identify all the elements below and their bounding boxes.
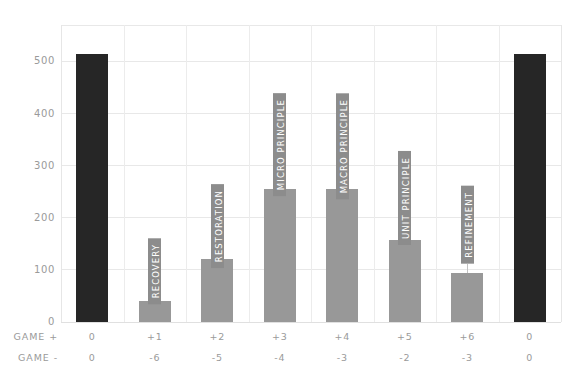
gridline-vertical — [124, 25, 125, 322]
callout-chip-text: RECOVERY — [148, 238, 161, 304]
axis-cell-value: +1 — [139, 331, 171, 342]
callout-stem — [467, 264, 468, 273]
y-axis: 0100200300400500 — [0, 0, 55, 375]
bar-callout-label: RECOVERY — [148, 238, 161, 301]
axis-cell-value: +3 — [264, 331, 296, 342]
x-axis: GAME +0+1+2+3+4+5+60GAME -0-6-5-4-3-2-30 — [0, 325, 576, 373]
gridline-vertical — [561, 25, 562, 322]
bar[interactable] — [514, 54, 546, 322]
bar[interactable] — [326, 189, 358, 322]
axis-cell-value: 0 — [514, 352, 546, 363]
bar[interactable] — [201, 259, 233, 322]
axis-cell-value: 0 — [76, 331, 108, 342]
bar[interactable] — [389, 240, 421, 322]
callout-chip-text: MACRO PRINCIPLE — [336, 93, 349, 199]
axis-row-title: GAME - — [0, 352, 58, 363]
axis-cell-value: -4 — [264, 352, 296, 363]
axis-cell-value: +5 — [389, 331, 421, 342]
axis-cell-value: 0 — [514, 331, 546, 342]
callout-chip-text: UNIT PRINCIPLE — [398, 151, 411, 245]
gridline-vertical — [249, 25, 250, 322]
axis-cell-value: -3 — [451, 352, 483, 363]
axis-cell-value: +6 — [451, 331, 483, 342]
axis-cell-value: -2 — [389, 352, 421, 363]
gridline-vertical — [436, 25, 437, 322]
axis-cell-value: -6 — [139, 352, 171, 363]
bar-callout-label: UNIT PRINCIPLE — [398, 151, 411, 240]
gridline-vertical — [186, 25, 187, 322]
axis-cell-value: +2 — [201, 331, 233, 342]
y-tick-label: 400 — [34, 109, 55, 119]
bar-callout-label: RESTORATION — [211, 184, 224, 259]
bar-callout-label: MACRO PRINCIPLE — [336, 93, 349, 189]
y-tick-label: 200 — [34, 213, 55, 223]
bar-callout-label: REFINEMENT — [461, 186, 474, 273]
axis-cell-value: 0 — [76, 352, 108, 363]
gridline-vertical — [311, 25, 312, 322]
axis-row-title: GAME + — [0, 331, 58, 342]
y-tick-label: 100 — [34, 265, 55, 275]
axis-cell-value: +4 — [326, 331, 358, 342]
plot-area: RECOVERYRESTORATIONMICRO PRINCIPLEMACRO … — [61, 25, 561, 322]
bar-chart: 0100200300400500 RECOVERYRESTORATIONMICR… — [0, 0, 576, 375]
gridline-vertical — [374, 25, 375, 322]
bar[interactable] — [264, 189, 296, 322]
bar-callout-label: MICRO PRINCIPLE — [273, 93, 286, 189]
gridline-vertical — [499, 25, 500, 322]
y-tick-label: 300 — [34, 161, 55, 171]
axis-cell-value: -3 — [326, 352, 358, 363]
bar[interactable] — [451, 273, 483, 323]
callout-chip-text: RESTORATION — [211, 184, 224, 268]
axis-cell-value: -5 — [201, 352, 233, 363]
bar[interactable] — [76, 54, 108, 322]
gridline-vertical — [61, 25, 62, 322]
y-tick-label: 500 — [34, 56, 55, 66]
callout-chip-text: MICRO PRINCIPLE — [273, 93, 286, 196]
callout-chip-text: REFINEMENT — [461, 186, 474, 264]
